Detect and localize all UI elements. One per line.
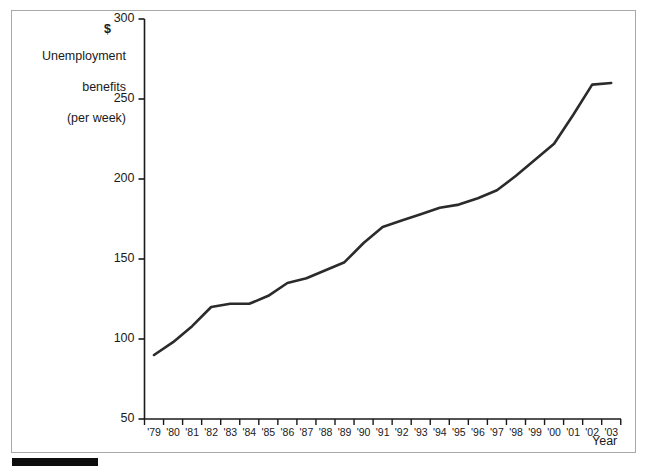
y-axis-tick-label: 50: [101, 411, 135, 425]
x-axis: [145, 419, 622, 425]
series-line-unemployment-benefits: [154, 83, 611, 355]
redacted-caption-bar: [12, 458, 98, 466]
x-axis-ticks: [145, 419, 621, 425]
y-axis-tick-label: 150: [101, 251, 135, 265]
y-axis: [139, 19, 145, 419]
data-series-group: [154, 83, 611, 355]
y-axis-tick-label: 100: [101, 331, 135, 345]
chart-plot-area: [12, 11, 637, 454]
chart-figure: $ Unemployment benefits (per week) Year …: [11, 10, 636, 453]
y-axis-tick-label: 200: [101, 171, 135, 185]
x-axis-tick-label: '03: [600, 426, 622, 438]
y-axis-ticks: [139, 19, 145, 419]
y-axis-tick-label: 300: [101, 11, 135, 25]
y-axis-tick-label: 250: [101, 91, 135, 105]
